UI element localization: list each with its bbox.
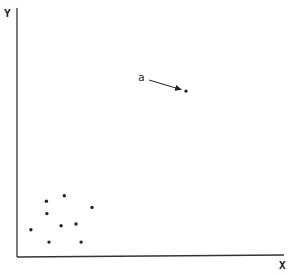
data-point <box>47 240 50 243</box>
data-point-a <box>184 89 187 92</box>
x-axis-line <box>17 255 284 257</box>
annotation-label-a: a <box>138 72 145 83</box>
data-point <box>79 240 82 243</box>
data-point <box>45 212 48 215</box>
data-point <box>59 224 62 227</box>
data-point <box>45 200 48 203</box>
data-point <box>63 194 66 197</box>
axes <box>17 8 284 257</box>
data-points <box>29 89 188 243</box>
y-axis-label: Y <box>4 8 11 19</box>
data-point <box>29 228 32 231</box>
scatter-plot <box>0 0 293 275</box>
data-point <box>74 222 77 225</box>
data-point <box>90 206 93 209</box>
x-axis-label: X <box>279 260 286 271</box>
annotation-arrow <box>149 80 181 90</box>
